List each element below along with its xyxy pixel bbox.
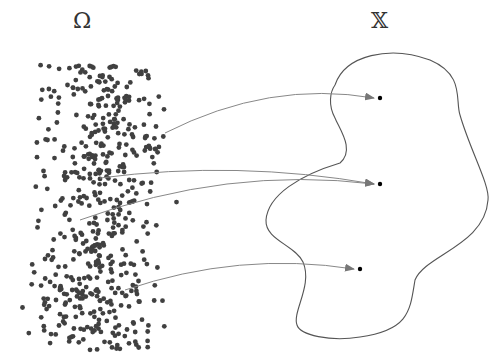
sample-point: [110, 234, 115, 239]
sample-point: [45, 186, 50, 191]
sample-point: [109, 267, 114, 272]
sample-point: [82, 166, 87, 171]
target-space-label: 𝕏: [371, 8, 388, 33]
sample-point: [105, 300, 110, 305]
sample-point: [152, 283, 157, 288]
sample-point: [127, 122, 132, 127]
sample-point: [71, 257, 76, 262]
sample-point: [139, 181, 144, 186]
sample-point: [72, 249, 77, 254]
sample-point: [92, 309, 97, 314]
sample-point: [103, 79, 108, 84]
sample-point: [107, 168, 112, 173]
sample-point: [61, 319, 66, 324]
sample-point: [88, 291, 93, 296]
sample-point: [134, 191, 139, 196]
sample-point: [67, 298, 72, 303]
sample-point: [122, 334, 127, 339]
sample-point: [122, 132, 127, 137]
sample-point: [83, 89, 88, 94]
sample-point: [68, 203, 73, 208]
sample-point: [142, 257, 147, 262]
sample-point: [113, 333, 118, 338]
sample-point: [109, 286, 114, 291]
sample-point: [43, 257, 48, 262]
sample-point: [37, 116, 42, 121]
sample-point: [107, 340, 112, 345]
sample-point: [106, 280, 111, 285]
mapping-arrows: [80, 93, 374, 290]
sample-point: [93, 215, 98, 220]
sample-point: [113, 291, 118, 296]
sample-point: [83, 294, 88, 299]
sample-point: [43, 300, 48, 305]
sample-point: [162, 107, 167, 112]
sample-point: [73, 314, 78, 319]
sample-point: [110, 259, 115, 264]
sample-point: [52, 137, 57, 142]
sample-point: [98, 298, 103, 303]
sample-point: [47, 87, 52, 92]
sample-point: [58, 286, 63, 291]
sample-point: [98, 177, 103, 182]
sample-point: [41, 169, 46, 174]
sample-point: [56, 101, 61, 106]
sample-point: [40, 87, 45, 92]
sample-point: [116, 98, 121, 103]
sample-point: [120, 193, 125, 198]
sample-point: [118, 201, 123, 206]
sample-point: [63, 210, 68, 215]
sample-point: [62, 174, 67, 179]
sample-point: [106, 94, 111, 99]
sample-point: [133, 330, 138, 335]
sample-point: [80, 232, 85, 237]
sample-point: [73, 161, 78, 166]
sample-point: [96, 231, 101, 236]
sample-point: [87, 203, 92, 208]
sample-point: [91, 180, 96, 185]
sample-point: [110, 345, 115, 350]
sample-point: [52, 156, 57, 161]
sample-point: [154, 223, 159, 228]
mapping-arrow: [165, 93, 374, 133]
sample-point: [132, 262, 137, 267]
sample-point: [130, 185, 135, 190]
sample-point: [32, 270, 37, 275]
sample-point: [38, 63, 43, 68]
sample-point: [103, 182, 108, 187]
sample-point: [98, 97, 103, 102]
sample-point: [118, 208, 123, 213]
sample-point: [120, 290, 125, 295]
sample-point: [133, 272, 138, 277]
sample-point: [142, 148, 147, 153]
sample-point: [79, 201, 84, 206]
sample-point: [104, 160, 109, 165]
sample-point: [118, 182, 123, 187]
sample-point: [127, 341, 132, 346]
sample-point: [95, 294, 100, 299]
sample-point: [72, 146, 77, 151]
sample-point: [134, 289, 139, 294]
sample-point: [145, 202, 150, 207]
sample-point: [98, 269, 103, 274]
sample-point: [63, 300, 68, 305]
sample-point: [89, 84, 94, 89]
sample-point: [112, 308, 117, 313]
sample-point: [174, 200, 179, 205]
sample-point: [62, 144, 67, 149]
sample-point: [53, 204, 58, 209]
sample-point: [47, 64, 52, 69]
sample-point: [98, 190, 103, 195]
sample-point: [92, 161, 97, 166]
sample-point: [129, 289, 134, 294]
sample-point: [93, 122, 98, 127]
sample-point: [102, 339, 107, 344]
sample-point: [29, 282, 34, 287]
sample-point: [162, 324, 167, 329]
sample-point: [20, 305, 25, 310]
sample-point: [120, 228, 125, 233]
sample-point: [51, 255, 56, 260]
sample-point: [110, 212, 115, 217]
sample-point: [88, 347, 93, 352]
sample-point: [131, 135, 136, 140]
